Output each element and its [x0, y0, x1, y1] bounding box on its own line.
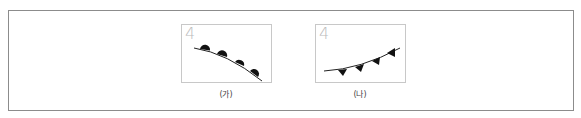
- panel-na: 4: [315, 24, 406, 83]
- figure-frame: 4 (가) 4 (나): [8, 10, 574, 111]
- caption-ga: (가): [206, 88, 246, 99]
- caption-na: (나): [340, 88, 380, 99]
- panel-ga: 4: [181, 24, 272, 83]
- warm-front-symbol-icon: [182, 25, 273, 84]
- cold-front-symbol-icon: [316, 25, 407, 84]
